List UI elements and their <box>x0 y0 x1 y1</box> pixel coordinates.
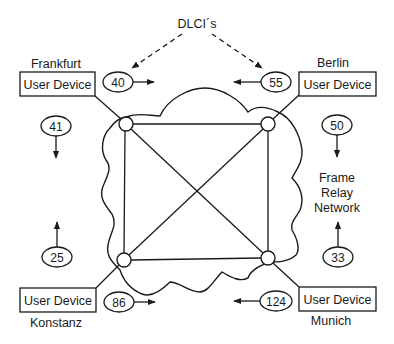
dlci-value: 25 <box>50 251 64 265</box>
dlci-value: 33 <box>331 251 345 265</box>
dlci-124: 124 <box>234 291 292 311</box>
dlci-value: 86 <box>112 296 126 310</box>
access-munich <box>273 263 299 287</box>
user-device-label-munich: User Device <box>303 293 371 307</box>
dashed-arrow-right <box>212 34 262 68</box>
switch-frankfurt <box>119 117 133 131</box>
dlci-value: 40 <box>111 76 125 90</box>
access-berlin <box>273 95 299 119</box>
dlci-33: 33 <box>323 222 353 267</box>
dlci-50: 50 <box>322 115 352 157</box>
site-konstanz: User Device Konstanz <box>20 288 96 330</box>
dlci-caption: DLCI´s <box>132 17 262 68</box>
dlci-caption-text: DLCI´s <box>178 17 217 31</box>
dlci-40: 40 <box>103 72 154 92</box>
network-label-line-2: Relay <box>321 186 354 200</box>
site-label-frankfurt: Frankfurt <box>31 57 82 71</box>
network-label-line-1: Frame <box>319 171 355 185</box>
switch-konstanz <box>117 253 131 267</box>
switch-berlin <box>261 117 275 131</box>
dlci-41: 41 <box>41 116 71 158</box>
network-label: Frame Relay Network <box>314 171 361 215</box>
dlci-value: 55 <box>269 76 283 90</box>
dashed-arrow-left <box>132 34 182 68</box>
switch-munich <box>261 251 275 265</box>
site-label-berlin: Berlin <box>317 56 349 70</box>
dlci-value: 41 <box>49 120 63 134</box>
user-device-label-konstanz: User Device <box>24 294 92 308</box>
site-label-konstanz: Konstanz <box>30 316 82 330</box>
dlci-55: 55 <box>234 72 291 92</box>
access-frankfurt <box>95 96 121 119</box>
link-frankfurt-konstanz <box>124 131 125 253</box>
link-berlin-konstanz <box>129 129 263 255</box>
mesh-links <box>124 124 268 260</box>
link-konstanz-munich <box>131 258 261 260</box>
access-konstanz <box>96 265 119 288</box>
user-device-label-frankfurt: User Device <box>23 78 91 92</box>
dlci-value: 124 <box>266 295 286 309</box>
frame-relay-diagram: DLCI´s Frankfurt User Device Berlin U <box>0 0 394 344</box>
network-label-line-3: Network <box>314 201 361 215</box>
site-munich: User Device Munich <box>299 287 376 328</box>
dlci-value: 50 <box>330 119 344 133</box>
site-berlin: Berlin User Device <box>299 56 376 96</box>
site-frankfurt: Frankfurt User Device <box>20 57 95 96</box>
user-device-label-berlin: User Device <box>303 78 371 92</box>
site-label-munich: Munich <box>311 314 351 328</box>
dlci-25: 25 <box>42 222 72 267</box>
